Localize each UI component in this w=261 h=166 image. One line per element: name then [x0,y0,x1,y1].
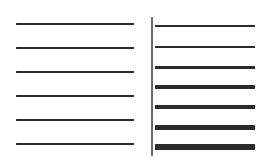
right-line-6 [155,125,255,130]
right-line-4 [155,85,255,89]
right-line-7 [155,144,255,150]
left-line-1 [16,23,134,25]
left-line-5 [16,119,134,121]
vertical-divider [151,17,153,156]
right-line-3 [155,66,255,69]
left-line-6 [16,143,134,145]
left-line-3 [16,71,134,73]
right-line-1 [155,25,255,26]
right-line-2 [155,46,255,47]
right-line-5 [155,105,255,109]
left-line-2 [16,47,134,49]
left-line-4 [16,95,134,97]
